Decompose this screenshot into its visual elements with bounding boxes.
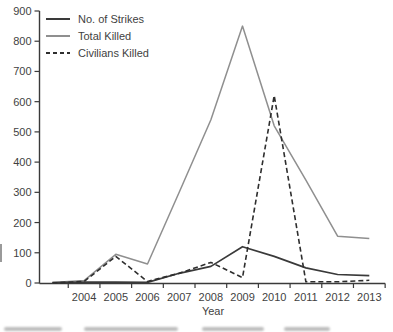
y-axis-tick-label: 500 (13, 126, 31, 138)
y-axis-tick-label: 200 (13, 217, 31, 229)
legend-label-total-killed: Total Killed (78, 30, 131, 42)
chart-figure: 0100200300400500600700800900200420052006… (0, 0, 393, 332)
y-axis-tick-label: 300 (13, 186, 31, 198)
y-axis-tick-label: 100 (13, 247, 31, 259)
y-axis-tick-label: 900 (13, 5, 31, 17)
legend-item-strikes: No. of Strikes (46, 13, 149, 25)
cropped-caption-fragment (0, 326, 393, 332)
x-axis-tick-label: 2011 (294, 291, 318, 303)
strikes-line-swatch (46, 18, 70, 20)
y-axis-tick-label: 700 (13, 65, 31, 77)
chart-legend: No. of Strikes Total Killed Civilians Ki… (46, 13, 149, 59)
y-axis-tick-label: 800 (13, 35, 31, 47)
x-axis-title: Year (202, 305, 225, 317)
x-axis-tick-label: 2004 (72, 291, 96, 303)
series-line-civilians-killed (52, 96, 369, 283)
y-axis-tick-label: 400 (13, 156, 31, 168)
legend-item-total-killed: Total Killed (46, 30, 149, 42)
x-axis-tick-label: 2006 (135, 291, 159, 303)
x-axis-tick-label: 2010 (262, 291, 286, 303)
series-line-no-of-strikes (52, 247, 369, 283)
legend-item-civilians-killed: Civilians Killed (46, 47, 149, 59)
y-axis-tick-label: 600 (13, 96, 31, 108)
caption-smudge (4, 327, 62, 331)
caption-smudge (84, 327, 178, 331)
civilians-killed-line-swatch (46, 52, 70, 54)
x-axis-tick-label: 2012 (325, 291, 349, 303)
x-axis-tick-label: 2008 (199, 291, 223, 303)
x-axis-tick-label: 2007 (167, 291, 191, 303)
x-axis-tick-label: 2013 (357, 291, 381, 303)
total-killed-line-swatch (46, 35, 70, 37)
x-axis-tick-label: 2005 (104, 291, 128, 303)
x-axis-tick-label: 2009 (230, 291, 254, 303)
legend-label-civilians-killed: Civilians Killed (78, 47, 149, 59)
caption-smudge (284, 327, 330, 331)
y-axis-tick-label: 0 (25, 277, 31, 289)
left-edge-artifact (0, 244, 2, 262)
legend-label-strikes: No. of Strikes (78, 13, 144, 25)
caption-smudge (202, 327, 264, 331)
series-line-total-killed (52, 26, 369, 282)
